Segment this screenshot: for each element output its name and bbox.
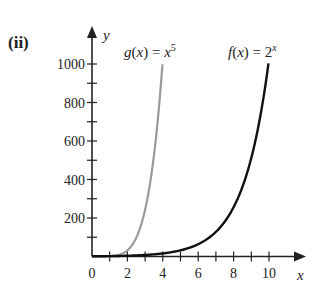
x-tick-label: 4 bbox=[159, 266, 166, 281]
function-chart: (ii) 02468102004006008001000 y x g(x) = … bbox=[0, 0, 328, 289]
x-tick-label: 0 bbox=[89, 266, 96, 281]
y-tick-label: 200 bbox=[64, 211, 85, 226]
x-axis-arrow-icon bbox=[294, 252, 306, 262]
x-tick-label: 8 bbox=[230, 266, 237, 281]
x-tick-label: 10 bbox=[262, 266, 276, 281]
axes bbox=[87, 26, 306, 262]
panel-label: (ii) bbox=[8, 33, 29, 52]
legend-f: f(x) = 2x bbox=[228, 42, 277, 61]
y-tick-label: 400 bbox=[64, 173, 85, 188]
x-tick-label: 6 bbox=[195, 266, 202, 281]
x-axis-label: x bbox=[296, 267, 304, 283]
y-tick-label: 1000 bbox=[57, 57, 85, 72]
legend-g: g(x) = x5 bbox=[124, 42, 176, 61]
curves bbox=[92, 63, 268, 256]
x-tick-label: 2 bbox=[124, 266, 131, 281]
ticks: 02468102004006008001000 bbox=[57, 57, 276, 281]
y-axis-arrow-icon bbox=[87, 26, 97, 38]
curve-g bbox=[92, 64, 162, 256]
y-tick-label: 800 bbox=[64, 96, 85, 111]
y-axis-label: y bbox=[101, 27, 110, 43]
curve-f bbox=[92, 63, 268, 256]
y-tick-label: 600 bbox=[64, 134, 85, 149]
